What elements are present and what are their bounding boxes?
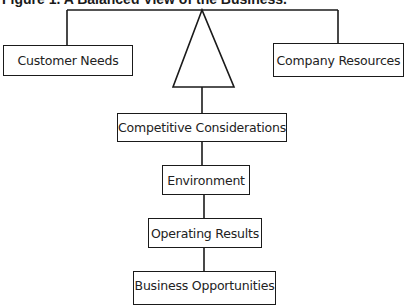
fulcrum-triangle-icon xyxy=(173,10,234,87)
node-label: Customer Needs xyxy=(17,53,118,68)
node-competitive-considerations: Competitive Considerations xyxy=(117,113,287,142)
node-label: Competitive Considerations xyxy=(118,120,286,135)
node-customer-needs: Customer Needs xyxy=(3,45,133,76)
node-label: Environment xyxy=(167,173,245,188)
node-operating-results: Operating Results xyxy=(148,218,262,248)
node-environment: Environment xyxy=(162,165,250,195)
node-label: Operating Results xyxy=(151,226,259,241)
node-business-opportunities: Business Opportunities xyxy=(133,271,276,305)
node-label: Business Opportunities xyxy=(135,278,275,293)
node-company-resources: Company Resources xyxy=(273,43,404,77)
node-label: Company Resources xyxy=(277,53,401,68)
